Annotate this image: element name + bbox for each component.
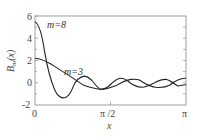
x-axis-label: x (106, 120, 112, 131)
x-tick-pi: π (182, 108, 187, 119)
x-tick-pi-over-2: π /2 (100, 108, 115, 119)
y-ticks-left (35, 16, 38, 94)
y-ticks-right (183, 27, 186, 94)
y-axis-label: Bm(x) (5, 49, 18, 72)
label-m8: m=8 (47, 19, 66, 30)
label-m3: m=3 (64, 66, 83, 77)
y-tick-minus-2: -2 (22, 99, 30, 110)
svg-text:Bm(x): Bm(x) (5, 49, 18, 72)
chart: 6 4 2 0 -2 0 π /2 π x Bm(x) m=8 m=3 (0, 0, 197, 140)
y-tick-6: 6 (27, 11, 32, 22)
x-tick-0: 0 (32, 108, 37, 119)
y-tick-2: 2 (27, 55, 32, 66)
y-tick-4: 4 (27, 33, 32, 44)
curve-m8 (35, 22, 186, 98)
y-tick-0: 0 (27, 77, 32, 88)
